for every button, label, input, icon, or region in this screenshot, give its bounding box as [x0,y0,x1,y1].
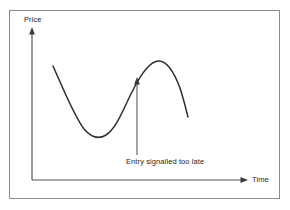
entry-annotation-label: Entry signalled too late [126,157,204,166]
y-axis-arrowhead [29,27,35,35]
y-axis-label: Price [24,15,42,24]
x-axis-arrowhead [241,177,249,183]
price-time-chart [0,0,290,210]
price-curve [53,61,188,137]
x-axis-label: Time [252,175,269,184]
entry-callout-arrow [134,77,140,155]
